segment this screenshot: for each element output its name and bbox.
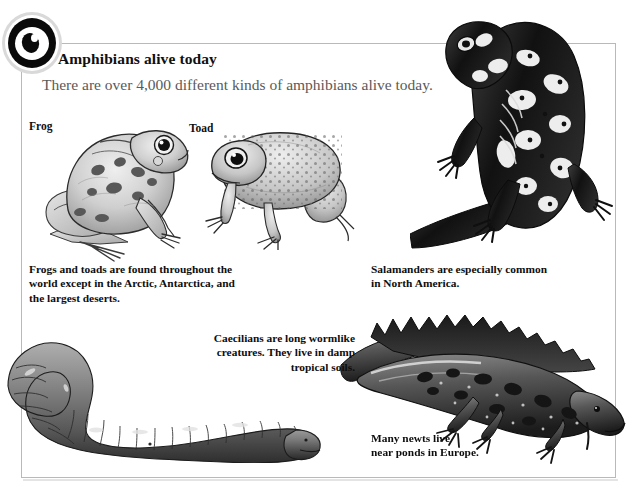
page-canvas: Amphibians alive today There are over 4,… bbox=[0, 0, 638, 492]
page-title: Amphibians alive today bbox=[58, 50, 217, 68]
caption-newts: Many newts live near ponds in Europe. bbox=[371, 431, 571, 460]
eye-icon bbox=[2, 12, 62, 74]
eye-glint bbox=[31, 34, 38, 42]
frog-label: Frog bbox=[29, 120, 52, 132]
frog-illustration bbox=[28, 114, 193, 264]
caption-caecilians: Caecilians are long wormlike creatures. … bbox=[140, 331, 355, 374]
caption-salamanders: Salamanders are especially common in Nor… bbox=[371, 262, 601, 291]
salamander-illustration bbox=[410, 4, 625, 259]
toad-label: Toad bbox=[189, 122, 214, 134]
caption-frogs-and-toads: Frogs and toads are found throughout the… bbox=[29, 262, 294, 305]
page-subtitle: There are over 4,000 different kinds of … bbox=[42, 76, 433, 94]
frame-shadow bbox=[23, 479, 618, 481]
toad-illustration bbox=[196, 125, 361, 250]
